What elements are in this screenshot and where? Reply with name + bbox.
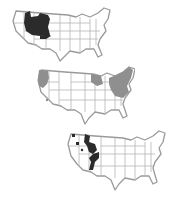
us-map-2 bbox=[35, 64, 135, 126]
us-map-1-graphic bbox=[10, 5, 114, 63]
highlight-california-spot bbox=[46, 99, 48, 101]
us-map-3-graphic bbox=[65, 128, 169, 192]
us-map-1 bbox=[10, 5, 114, 63]
highlight-washington-spot-1 bbox=[72, 134, 75, 137]
highlight-washington-spot-2 bbox=[76, 142, 79, 145]
us-map-3 bbox=[65, 128, 169, 192]
us-map-2-graphic bbox=[35, 64, 135, 126]
highlight-idaho-spot bbox=[81, 149, 83, 151]
